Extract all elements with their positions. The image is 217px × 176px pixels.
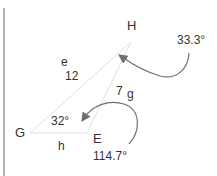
- side-g-name-label: g: [127, 88, 134, 100]
- side-eh: [87, 42, 131, 133]
- angle-h-label: 33.3°: [177, 34, 205, 46]
- vertex-g-label: G: [15, 127, 25, 139]
- side-e-value-label: 12: [65, 70, 78, 82]
- side-h-name-label: h: [58, 140, 65, 152]
- vertex-e-label: E: [93, 133, 102, 145]
- side-g-value-label: 7: [116, 85, 123, 97]
- side-e-name-label: e: [61, 56, 68, 68]
- vertex-h-label: H: [127, 20, 136, 32]
- angle-e-label: 114.7°: [93, 150, 127, 162]
- angle-g-label: 32°: [51, 115, 69, 127]
- angle-h-arrow: [122, 53, 189, 77]
